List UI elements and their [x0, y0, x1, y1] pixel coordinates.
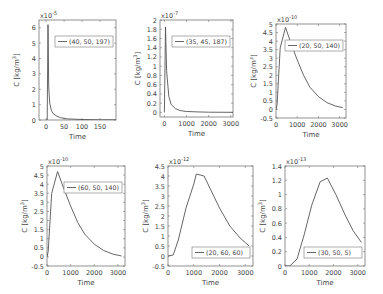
y-tick-label: 1 — [161, 233, 165, 241]
y-tick-label: 1 — [32, 101, 36, 109]
axis-exponent: x10-10 — [277, 14, 297, 24]
x-tick-label: 0 — [283, 269, 287, 277]
y-tick-label: 1.8 — [147, 26, 157, 34]
y-tick-label: 1.5 — [155, 223, 165, 231]
y-tick-label: 3 — [40, 199, 44, 207]
x-tick-label: 0 — [45, 269, 49, 277]
y-tick-label: 4.5 — [263, 29, 273, 37]
y-tick-label: 4.5 — [155, 163, 165, 171]
y-tick-label: 4 — [40, 181, 44, 189]
y-tick-label: 2 — [32, 86, 36, 94]
y-tick-label: 0.4 — [147, 90, 157, 98]
y-tick-label: 5 — [40, 163, 44, 171]
x-tick-label: 2000 — [86, 269, 103, 277]
x-tick-label: 2000 — [200, 120, 217, 128]
y-tick-label: 3.5 — [155, 183, 165, 191]
y-tick-label: 1 — [278, 191, 282, 199]
y-tick-label: 6 — [32, 24, 36, 32]
y-tick-label: 0.6 — [272, 220, 282, 228]
y-axis-label: C [kg/m3] — [140, 199, 150, 233]
axis-exponent: x10-12 — [169, 156, 189, 166]
x-tick-label: 1000 — [289, 121, 306, 129]
x-tick-label: 150 — [94, 123, 106, 131]
x-axis-label: Time — [187, 130, 205, 138]
y-tick-label: 1.5 — [263, 80, 273, 88]
legend: (20, 60, 60) — [192, 247, 250, 258]
x-tick-label: 2000 — [310, 121, 327, 129]
y-tick-label: 1.4 — [147, 44, 157, 52]
legend: (40, 50, 197) — [55, 36, 113, 47]
y-tick-label: 4 — [161, 173, 165, 181]
plot-area — [47, 166, 125, 266]
y-tick-label: 4 — [269, 38, 273, 46]
y-tick-label: 3 — [161, 193, 165, 201]
y-tick-label: 1.6 — [147, 35, 157, 43]
y-tick-label: 3 — [269, 55, 273, 63]
y-tick-label: 1 — [153, 63, 157, 71]
x-tick-label: 2000 — [211, 269, 228, 277]
y-tick-label: 0 — [40, 253, 44, 261]
axis-exponent: x10-13 — [286, 156, 306, 166]
y-tick-label: 4 — [32, 55, 36, 63]
axis-exponent: x10-5 — [40, 10, 57, 20]
y-tick-label: 0 — [269, 106, 273, 114]
y-tick-label: 2 — [40, 217, 44, 225]
y-tick-label: 2 — [153, 17, 157, 25]
legend-label: (60, 50, 140) — [78, 184, 119, 191]
x-axis-label: Time — [76, 279, 94, 287]
y-tick-label: 0.2 — [272, 248, 282, 256]
y-tick-label: 0.6 — [147, 81, 157, 89]
y-axis-label: C [kg/m3] — [11, 53, 21, 87]
chart-panel-2: 00.20.40.60.811.21.41.61.820100020003000… — [122, 0, 257, 146]
y-tick-label: -0.5 — [152, 263, 165, 271]
y-tick-label: 2.5 — [263, 63, 273, 71]
y-axis-label: C [kg/m3] — [250, 54, 258, 88]
y-tick-label: 0 — [161, 253, 165, 261]
y-tick-label: 1.4 — [272, 163, 282, 171]
y-tick-label: 1.5 — [34, 226, 44, 234]
y-tick-label: 2 — [269, 72, 273, 80]
x-axis-label: Time — [315, 279, 333, 287]
y-tick-label: 2.5 — [34, 208, 44, 216]
y-axis-label: C [kg/m3] — [132, 52, 142, 86]
chart-panel-5: -0.500.511.522.533.544.50100020003000x10… — [125, 148, 260, 294]
x-tick-label: 1000 — [301, 269, 318, 277]
y-tick-label: 0.2 — [147, 100, 157, 108]
y-tick-label: 3 — [32, 70, 36, 78]
x-tick-label: 0 — [44, 123, 48, 131]
axis-exponent: x10-7 — [161, 10, 178, 20]
legend-label: (35, 45, 187) — [186, 38, 227, 45]
y-tick-label: 0 — [153, 109, 157, 117]
y-tick-label: 0.5 — [155, 243, 165, 251]
y-axis-label: C [kg/m3] — [257, 199, 267, 233]
x-axis-label: Time — [201, 279, 219, 287]
y-tick-label: 3.5 — [263, 46, 273, 54]
chart-panel-6: 00.20.40.60.811.21.40100020003000x10-13T… — [250, 148, 383, 294]
x-tick-label: 100 — [76, 123, 88, 131]
legend-label: (40, 50, 197) — [69, 38, 110, 45]
axis-exponent: x10-10 — [48, 156, 68, 166]
y-tick-label: 3.5 — [34, 190, 44, 198]
y-tick-label: 1.2 — [147, 53, 157, 61]
x-tick-label: 3000 — [223, 120, 240, 128]
x-tick-label: 0 — [162, 120, 166, 128]
x-tick-label: 1000 — [178, 120, 195, 128]
y-tick-label: -0.5 — [260, 115, 273, 123]
y-tick-label: 1 — [269, 89, 273, 97]
legend: (35, 45, 187) — [172, 36, 230, 47]
x-tick-label: 2000 — [325, 269, 342, 277]
y-tick-label: 5 — [269, 21, 273, 29]
x-axis-label: Time — [68, 133, 86, 141]
legend: (60, 50, 140) — [64, 182, 122, 193]
y-tick-label: 0.8 — [147, 72, 157, 80]
legend: (30, 50, 5) — [304, 247, 362, 258]
y-tick-label: 1.2 — [272, 177, 282, 185]
y-tick-label: 0 — [32, 117, 36, 125]
x-tick-label: 50 — [60, 123, 68, 131]
y-tick-label: -0.5 — [31, 263, 44, 271]
plot-area — [276, 24, 346, 118]
legend-label: (30, 50, 5) — [318, 249, 351, 256]
y-tick-label: 0.5 — [34, 244, 44, 252]
y-tick-label: 0.8 — [272, 205, 282, 213]
y-tick-label: 1 — [40, 235, 44, 243]
